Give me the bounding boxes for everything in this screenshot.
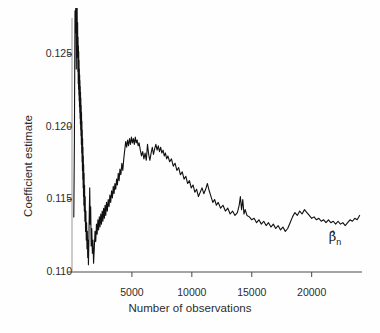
- beta-hat-symbol: β̂: [329, 229, 337, 244]
- x-tick-label: 20000: [282, 287, 342, 298]
- y-tick-label: 0.110: [32, 266, 72, 277]
- beta-subscript: n: [336, 237, 341, 247]
- y-tick-label: 0.120: [32, 121, 72, 132]
- x-tick-label: 5000: [102, 287, 162, 298]
- x-tick-label: 10000: [162, 287, 222, 298]
- y-tick-label: 0.115: [32, 193, 72, 204]
- x-tick-marks: [132, 272, 312, 277]
- beta-hat-n-annotation: β̂n: [329, 229, 342, 247]
- y-tick-label: 0.125: [32, 48, 72, 59]
- data-series-line: [74, 0, 360, 265]
- x-axis-tick-labels: 5000100001500020000: [0, 279, 380, 299]
- x-tick-label: 15000: [222, 287, 282, 298]
- figure-canvas: Coefficient estimate Number of observati…: [0, 0, 380, 333]
